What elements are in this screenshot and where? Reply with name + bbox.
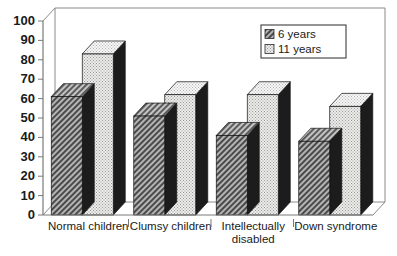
y-tick-label: 90: [21, 32, 35, 47]
bar-front-face: [299, 141, 330, 215]
bar-4-series-1: [299, 128, 342, 215]
legend-label: 11 years: [278, 43, 322, 55]
bar-side-face: [361, 93, 373, 215]
bar-front-face: [51, 97, 82, 215]
bar-side-face: [82, 84, 94, 215]
legend-label: 6 years: [278, 28, 316, 40]
y-tick-label: 80: [21, 52, 35, 67]
bar-1-series-1: [51, 84, 94, 215]
bar-side-face: [247, 122, 259, 215]
chart-legend: 6 years11 years: [261, 25, 346, 58]
legend-swatch: [265, 30, 274, 39]
bar-front-face: [216, 135, 247, 215]
bar-side-face: [113, 41, 125, 215]
legend-swatch: [265, 45, 274, 54]
y-tick-label: 10: [21, 188, 35, 203]
y-tick-label: 0: [28, 207, 35, 222]
y-tick-label: 20: [21, 168, 35, 183]
x-tick-label: Down syndrome: [294, 220, 377, 232]
y-tick-label: 50: [21, 110, 35, 125]
bar-side-face: [330, 128, 342, 215]
bar-chart-figure: 0102030405060708090100 Normal childrenCl…: [0, 0, 397, 256]
x-tick-label: disabled: [232, 233, 275, 245]
bar-3-series-1: [216, 122, 259, 215]
x-tick-label: Clumsy children: [130, 220, 212, 232]
y-tick-label: 60: [21, 91, 35, 106]
chart-canvas: 0102030405060708090100 Normal childrenCl…: [0, 0, 397, 256]
bar-2-series-1: [134, 103, 177, 215]
bar-side-face: [196, 82, 208, 215]
bar-side-face: [165, 103, 177, 215]
y-tick-label: 40: [21, 129, 35, 144]
x-tick-label: Intellectually: [222, 220, 286, 232]
y-tick-label: 30: [21, 149, 35, 164]
bar-front-face: [134, 116, 165, 215]
y-tick-label: 70: [21, 71, 35, 86]
bar-side-face: [278, 82, 290, 215]
x-tick-label: Normal children: [48, 220, 129, 232]
y-tick-label: 100: [13, 13, 35, 28]
